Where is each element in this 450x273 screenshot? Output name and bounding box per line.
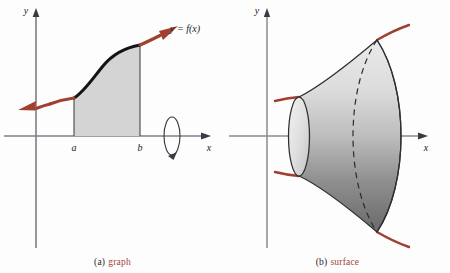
tick-label-a: a	[72, 142, 77, 153]
y-axis-label: y	[23, 5, 29, 16]
x-axis-label: x	[206, 142, 212, 153]
caption-tag-b: (b)	[316, 257, 328, 267]
x-axis-arrowhead	[201, 132, 211, 139]
y-axis-arrowhead	[264, 8, 270, 17]
caption-word-a: graph	[105, 257, 131, 267]
x-axis-arrowhead	[418, 132, 428, 139]
left-rim-ellipse	[289, 97, 310, 176]
figure-container: y x a b y = f(x) (a)graph	[0, 0, 450, 273]
graph-diagram: y x a b y = f(x)	[0, 0, 225, 273]
panel-graph: y x a b y = f(x) (a)graph	[0, 0, 225, 273]
curve-tail-right	[140, 36, 160, 46]
tick-label-b: b	[138, 142, 143, 153]
rotation-arrowhead	[168, 152, 177, 160]
x-axis-label: x	[423, 142, 429, 153]
panel-surface: y x (b)surface	[225, 0, 450, 273]
y-axis-arrowhead	[33, 8, 40, 17]
surface-body	[296, 40, 401, 232]
curve-tail-left	[50, 98, 74, 104]
curve-tail-left-inner	[36, 104, 50, 109]
surface-diagram: y x	[225, 0, 450, 273]
caption-word-b: surface	[327, 257, 359, 267]
caption-surface: (b)surface	[225, 257, 450, 267]
generator-tail-upper-right	[377, 25, 409, 40]
curve-left-arrowhead	[18, 101, 36, 111]
function-label: y = f(x)	[169, 23, 201, 35]
caption-tag-a: (a)	[94, 257, 105, 267]
caption-graph: (a)graph	[0, 257, 225, 267]
generator-tail-lower-right	[377, 232, 409, 247]
y-axis-label: y	[254, 5, 260, 16]
